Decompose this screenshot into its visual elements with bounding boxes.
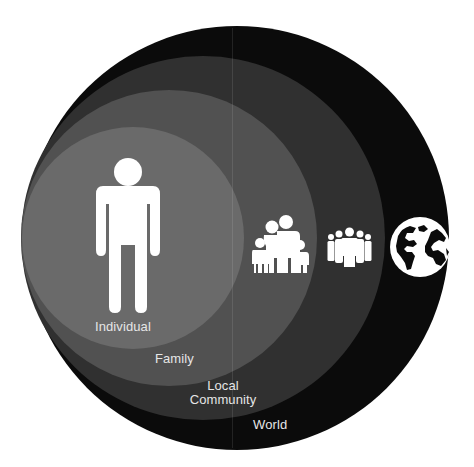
label-individual: Individual [95, 320, 151, 334]
label-local-community: Local Community [186, 379, 260, 407]
label-community-line2: Community [186, 393, 260, 407]
label-family: Family [155, 352, 194, 366]
globe-icon [390, 217, 450, 277]
nested-circles-diagram: Individual Family Local Community World [0, 0, 474, 467]
label-community-line1: Local [186, 379, 260, 393]
label-world: World [253, 418, 287, 432]
